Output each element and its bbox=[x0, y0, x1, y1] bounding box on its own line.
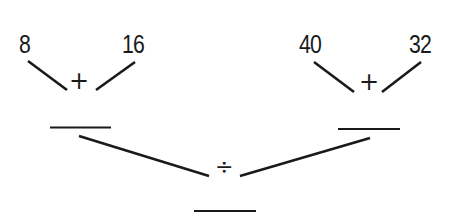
right-addend-a: 40 bbox=[299, 32, 321, 57]
left-addend-b: 16 bbox=[122, 32, 144, 57]
number-bond-diagram: 8 16 + 40 32 + ÷ bbox=[0, 0, 458, 223]
left-addend-a: 8 bbox=[19, 32, 30, 57]
left-plus-operator: + bbox=[69, 69, 89, 93]
right-addend-b: 32 bbox=[409, 32, 431, 57]
right-b-connector bbox=[382, 62, 421, 92]
left-a-connector bbox=[28, 61, 67, 90]
right-plus-operator: + bbox=[359, 70, 379, 94]
right-result-connector bbox=[240, 138, 370, 176]
left-b-connector bbox=[96, 62, 135, 90]
connector-lines bbox=[0, 0, 458, 223]
divide-operator: ÷ bbox=[215, 156, 233, 178]
right-a-connector bbox=[314, 62, 354, 92]
left-result-connector bbox=[79, 136, 209, 176]
